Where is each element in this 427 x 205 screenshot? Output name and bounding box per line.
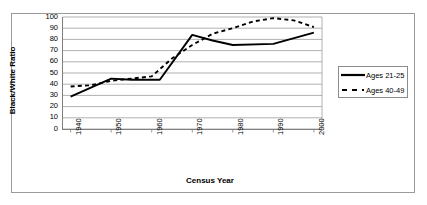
chart-legend: Ages 21-25 Ages 40-49	[338, 66, 408, 98]
line-chart-canvas	[0, 0, 427, 205]
y-tick-label: 10	[36, 113, 58, 121]
gridlines-group	[63, 17, 323, 129]
x-tick-label: 1990	[277, 118, 285, 135]
y-tick-label: 90	[36, 24, 58, 32]
y-tick-label: 30	[36, 91, 58, 99]
y-tick-label: 50	[36, 69, 58, 77]
x-tick-label: 1970	[196, 118, 204, 135]
y-tick-label: 80	[36, 35, 58, 43]
y-tick-label: 0	[36, 125, 58, 133]
y-tick-label: 100	[36, 13, 58, 21]
legend-item-ages-21-25: Ages 21-25	[341, 68, 404, 82]
y-tick-label: 20	[36, 102, 58, 110]
y-tick-label: 70	[36, 46, 58, 54]
x-axis-title: Census Year	[120, 176, 300, 185]
series-line-ages-21-25	[71, 33, 314, 97]
x-tick-label: 1950	[115, 118, 123, 135]
chart-figure: 0102030405060708090100 19401950196019701…	[0, 0, 427, 205]
y-tick-label: 60	[36, 57, 58, 65]
y-tick-label: 40	[36, 80, 58, 88]
legend-swatch-dashed	[341, 85, 365, 95]
x-tick-label: 2000	[318, 118, 326, 135]
y-axis-title: Black/White Ratio	[8, 46, 17, 116]
x-tick-label: 1980	[237, 118, 245, 135]
legend-label-ages-21-25: Ages 21-25	[366, 71, 404, 80]
legend-item-ages-40-49: Ages 40-49	[341, 83, 404, 97]
legend-label-ages-40-49: Ages 40-49	[366, 86, 404, 95]
x-tick-label: 1960	[156, 118, 164, 135]
series-lines-group	[71, 18, 314, 96]
x-tick-label: 1940	[75, 118, 83, 135]
legend-swatch-solid	[341, 70, 365, 80]
